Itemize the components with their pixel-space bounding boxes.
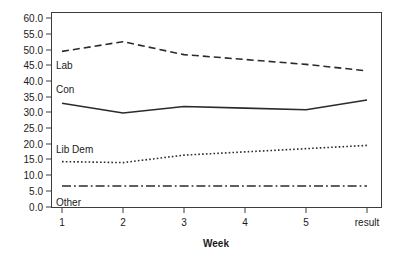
y-tick-label-9: 45.0 [24, 60, 44, 71]
y-tick-label-5: 25.0 [24, 123, 44, 134]
x-tick-label-3: 4 [242, 217, 248, 228]
x-axis-ticks [62, 208, 367, 214]
y-axis-ticks [46, 18, 52, 207]
y-tick-label-11: 55.0 [24, 29, 44, 40]
series-label-lab: Lab [56, 60, 73, 71]
x-tick-label-4: 5 [303, 217, 309, 228]
x-tick-label-0: 1 [59, 217, 65, 228]
y-tick-label-6: 30.0 [24, 107, 44, 118]
x-tick-label-2: 3 [181, 217, 187, 228]
line-chart: 0.0 5.0 10.0 15.0 20.0 25.0 30.0 35.0 40… [0, 0, 399, 271]
y-tick-label-12: 60.0 [24, 13, 44, 24]
series-line-con [62, 100, 367, 113]
series-label-con: Con [56, 84, 74, 95]
series-line-lab [62, 42, 367, 71]
y-tick-label-3: 15.0 [24, 154, 44, 165]
y-tick-label-8: 40.0 [24, 76, 44, 87]
series-label-other: Other [56, 197, 82, 208]
y-tick-label-10: 50.0 [24, 45, 44, 56]
y-tick-label-7: 35.0 [24, 92, 44, 103]
x-tick-label-1: 2 [120, 217, 126, 228]
y-tick-label-0: 0.0 [29, 202, 43, 213]
series-layer [62, 42, 367, 186]
series-label-lib-dem: Lib Dem [56, 144, 93, 155]
chart-canvas: 0.0 5.0 10.0 15.0 20.0 25.0 30.0 35.0 40… [0, 0, 399, 271]
y-tick-label-1: 5.0 [29, 186, 43, 197]
y-tick-label-4: 20.0 [24, 139, 44, 150]
series-line-lib-dem [62, 145, 367, 162]
x-axis-tick-labels: 1 2 3 4 5 result [59, 217, 379, 228]
y-tick-label-2: 10.0 [24, 170, 44, 181]
x-tick-label-5: result [355, 217, 380, 228]
y-axis-tick-labels: 0.0 5.0 10.0 15.0 20.0 25.0 30.0 35.0 40… [24, 13, 44, 213]
x-axis-title: Week [203, 238, 229, 249]
